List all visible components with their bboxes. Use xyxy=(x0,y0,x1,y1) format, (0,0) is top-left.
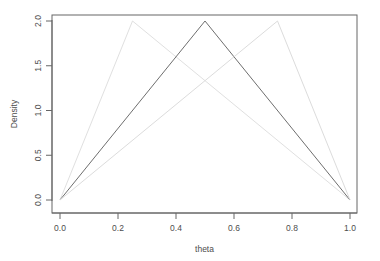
y-tick-label: 0.5 xyxy=(33,149,43,161)
x-tick-label: 0.0 xyxy=(54,223,66,233)
y-tick-label: 1.5 xyxy=(33,60,43,72)
x-tick-label: 1.0 xyxy=(344,223,356,233)
density-plot-figure: 0.00.51.01.52.0 0.00.20.40.60.81.0 theta… xyxy=(0,0,380,261)
plot-canvas: 0.00.51.01.52.0 0.00.20.40.60.81.0 theta… xyxy=(0,0,380,261)
x-tick-label: 0.4 xyxy=(170,223,182,233)
x-axis-title: theta xyxy=(195,244,214,254)
x-tick-label: 0.8 xyxy=(286,223,298,233)
x-tick-label: 0.2 xyxy=(112,223,124,233)
y-tick-label: 1.0 xyxy=(33,104,43,116)
y-axis-title: Density xyxy=(9,99,19,128)
y-tick-label: 2.0 xyxy=(33,15,43,27)
x-tick-label: 0.6 xyxy=(228,223,240,233)
y-tick-label: 0.0 xyxy=(33,194,43,206)
